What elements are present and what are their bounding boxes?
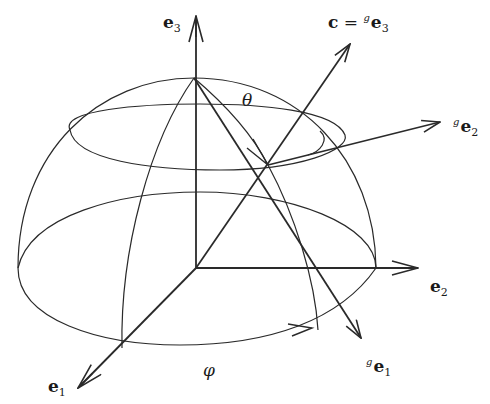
c-label-sub: 3	[382, 22, 389, 35]
hemisphere-outline	[18, 78, 376, 268]
ge1-label-base: e	[373, 356, 384, 376]
e1-label-sub: 1	[59, 386, 66, 399]
e2-label-base: e	[430, 276, 441, 296]
ge1-axis	[194, 78, 361, 338]
ge1-label-sub: 1	[384, 366, 391, 379]
theta-arrowhead	[247, 139, 268, 165]
ge2-axis	[268, 122, 440, 165]
e1-label: e1	[48, 378, 66, 395]
phi-label: φ	[203, 362, 215, 379]
phi-arrowhead	[288, 324, 312, 336]
e1-axis	[78, 268, 196, 388]
c-label-eq: =	[338, 12, 363, 32]
equator-front	[18, 268, 376, 345]
ge2-label-sup: g	[453, 116, 459, 127]
e3-label-sub: 3	[174, 22, 181, 35]
ge1-label: ge1	[366, 358, 391, 375]
equator-back	[18, 192, 376, 268]
theta-label: θ	[242, 92, 252, 109]
c-label-base: e	[371, 12, 382, 32]
c-label-lhs: c	[328, 12, 338, 32]
c-label: c = ge3	[328, 14, 389, 31]
theta-arc	[194, 78, 268, 165]
ge2-label-base: e	[460, 116, 471, 136]
meridian-q	[268, 165, 318, 330]
e2-label-sub: 2	[441, 286, 448, 299]
e3-label: e3	[163, 14, 181, 31]
ge2-label-sub: 2	[471, 126, 478, 139]
c-label-sup: g	[363, 12, 369, 23]
e2-label: e2	[430, 278, 448, 295]
e3-label-base: e	[163, 12, 174, 32]
e1-label-base: e	[48, 376, 59, 396]
ge2-label: ge2	[453, 118, 478, 135]
hemisphere-figure	[0, 0, 490, 404]
diagram-canvas: e3 e2 e1 c = ge3 ge2 ge1 θ φ	[0, 0, 490, 404]
c-axis	[196, 44, 350, 268]
ge1-label-sup: g	[366, 356, 372, 367]
